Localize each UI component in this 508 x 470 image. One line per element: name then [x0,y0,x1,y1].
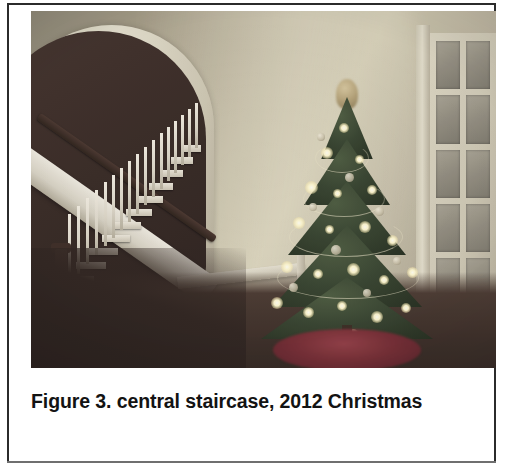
tree-ornament [309,203,317,211]
tree-light [325,225,334,234]
tree-ornament [345,173,354,182]
stair-baluster [160,133,163,189]
tree-ornament [317,133,325,141]
figure-page: Figure 3. central staircase, 2012 Christ… [0,0,508,470]
tree-light [271,297,283,309]
tree-light [281,261,293,273]
tree-light [387,235,398,246]
tree-skirt [273,329,421,368]
tree-ornament [331,245,341,255]
stair-baluster [128,161,131,222]
stair-baluster [174,121,177,173]
tree-light [321,147,333,159]
door-pane [436,95,460,143]
stair-baluster [195,103,198,148]
stair-step [114,222,141,229]
tree-light [333,189,342,198]
tree-light [379,275,389,285]
tree-light [359,221,371,233]
door-pane [466,95,490,143]
door-pane [466,150,490,198]
tree-light [305,181,318,194]
figure-caption: Figure 3. central staircase, 2012 Christ… [31,386,451,417]
tree-light [347,263,360,276]
tree-garland [289,217,403,257]
tree-light [313,269,323,279]
christmas-tree [259,85,435,355]
door-pane [436,204,460,252]
door-pane [436,150,460,198]
tree-light [303,307,314,318]
page-border-left [7,3,9,463]
door-pane [436,41,460,89]
stair-baluster [120,168,123,230]
tree-ornament [289,283,298,292]
page-border-top [7,3,496,5]
stair-baluster [112,175,115,238]
tree-light [371,311,383,323]
stair-baluster [188,109,191,157]
tree-ornament [393,257,401,265]
tree-light [407,267,418,278]
stair-step [160,170,183,177]
tree-light [367,185,377,195]
tree-light [337,301,347,311]
floor-shadow-left [31,248,246,368]
tree-ornament [363,289,371,297]
stair-baluster [152,140,155,197]
tree-light [401,303,411,313]
stair-step [138,196,163,203]
stair-baluster [144,147,147,205]
tree-light [355,155,364,164]
page-border-bottom [7,461,496,463]
figure-photograph [31,11,496,368]
stair-baluster [181,115,184,165]
stair-step [181,145,201,152]
stair-baluster [167,127,170,181]
tree-light [339,123,349,133]
door-pane [466,41,490,89]
tree-light [293,217,305,229]
stair-baluster [136,154,139,214]
tree-ornament [375,207,384,216]
stair-baluster [95,190,98,255]
door-pane [466,204,490,252]
stair-baluster [104,182,107,246]
